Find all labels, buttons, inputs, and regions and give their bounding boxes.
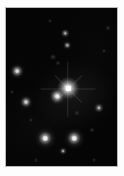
astronomical-image-figure [0, 0, 124, 176]
star-center-faint [75, 111, 80, 116]
star-halo [39, 132, 52, 145]
star-halo [68, 132, 81, 145]
star-halo [10, 90, 14, 94]
star-halo [62, 30, 69, 37]
star-halo [90, 128, 95, 133]
star-halo [34, 158, 38, 162]
star-nw-smudge [50, 54, 56, 60]
star-core [72, 136, 76, 140]
star-core [98, 107, 100, 109]
star-west [12, 66, 23, 77]
star-west-lower [21, 97, 31, 107]
star-lower-right [68, 132, 81, 145]
star-halo [29, 118, 33, 122]
star-halo [51, 90, 64, 103]
sky-field [6, 8, 117, 166]
star-halo [21, 97, 31, 107]
star-lower-left [39, 132, 52, 145]
star-ne-faint [106, 26, 111, 31]
star-halo [56, 61, 61, 66]
star-w-faint [29, 118, 33, 122]
star-se-faint [90, 128, 95, 133]
star-halo [48, 19, 52, 23]
star-core [66, 86, 71, 91]
star-halo [60, 148, 66, 154]
star-south [60, 148, 66, 154]
star-n-edge [48, 19, 52, 23]
star-e-upper [102, 49, 106, 53]
star-core [15, 69, 18, 72]
star-sw-edge [34, 158, 38, 162]
sky-background-noise [6, 8, 117, 166]
star-halo [106, 26, 111, 31]
star-companion [51, 90, 64, 103]
diffraction-spike [54, 75, 81, 102]
star-halo [64, 42, 71, 49]
star-halo [92, 158, 96, 162]
star-core [55, 94, 59, 98]
star-primary [58, 78, 79, 99]
star-left-edge [10, 90, 14, 94]
star-halo [50, 54, 56, 60]
star-mid-smudge [56, 61, 61, 66]
star-core [64, 32, 66, 34]
star-halo [95, 104, 103, 112]
star-core [25, 101, 28, 104]
star-s-edge [92, 158, 96, 162]
star-core [66, 44, 68, 46]
star-halo [102, 49, 106, 53]
diffraction-spike [54, 75, 81, 102]
star-core [43, 136, 47, 140]
star-halo [58, 78, 79, 99]
diffraction-spike [68, 61, 69, 116]
diffraction-spike [41, 88, 96, 89]
star-east [95, 104, 103, 112]
star-halo [75, 111, 80, 116]
star-core [62, 150, 64, 152]
star-north-a [62, 30, 69, 37]
star-north-b [64, 42, 71, 49]
star-halo [12, 66, 23, 77]
